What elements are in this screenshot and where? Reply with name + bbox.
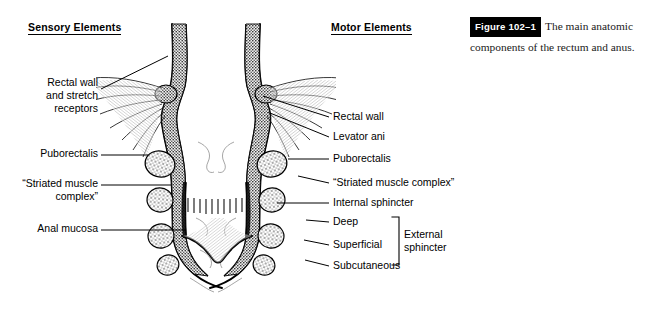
label-rectal-wall-and-stretch-receptors: Rectal wall and stretch receptors xyxy=(0,76,98,116)
label-deep: Deep xyxy=(333,215,358,228)
label-subcutaneous: Subcutaneous xyxy=(333,259,400,272)
label-striated-muscle-complex-motor: “Striated muscle complex” xyxy=(333,176,454,189)
label-puborectalis-sensory: Puborectalis xyxy=(0,147,98,160)
label-external-sphincter-group: External sphincter xyxy=(404,228,484,254)
label-internal-sphincter: Internal sphincter xyxy=(333,196,414,209)
figure-container: Sensory Elements Motor Elements xyxy=(0,0,651,313)
external-sphincter-bracket xyxy=(392,217,399,265)
figure-number-tag: Figure 102–1 xyxy=(470,17,541,37)
label-superficial: Superficial xyxy=(333,238,382,251)
label-puborectalis-motor: Puborectalis xyxy=(333,152,391,165)
figure-caption: Figure 102–1The main anatomic components… xyxy=(470,16,642,55)
rectum-anus-illustration xyxy=(96,22,336,307)
label-rectal-wall-motor: Rectal wall xyxy=(333,110,384,123)
label-anal-mucosa: Anal mucosa xyxy=(0,222,98,235)
label-levator-ani: Levator ani xyxy=(333,130,385,143)
heading-motor-elements: Motor Elements xyxy=(331,21,412,35)
label-striated-muscle-complex-sensory: “Striated muscle complex” xyxy=(0,177,98,203)
